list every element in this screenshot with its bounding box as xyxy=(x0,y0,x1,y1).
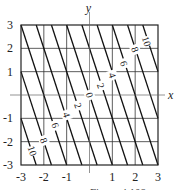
y-tick-label: -3 xyxy=(3,158,13,172)
x-tick-label: -3 xyxy=(16,170,26,184)
y-tick-label: -2 xyxy=(3,135,13,149)
x-tick-label: -1 xyxy=(62,170,72,184)
x-axis-label: x xyxy=(167,88,174,102)
x-tick-label: 1 xyxy=(109,170,115,184)
y-tick-label: -1 xyxy=(3,111,13,125)
contour-plot: 1086420246810 -3-2-1123321-1-2-3 x y Fig… xyxy=(0,0,175,190)
y-tick-label: 3 xyxy=(7,18,13,32)
y-axis-label: y xyxy=(85,1,92,15)
x-tick-label: 2 xyxy=(132,170,138,184)
figure-caption: Figure 4.108 xyxy=(90,186,147,190)
y-tick-label: 1 xyxy=(7,65,13,79)
x-tick-label: -2 xyxy=(39,170,49,184)
contour-label: 10 xyxy=(26,145,40,158)
contour-label: 10 xyxy=(140,35,154,48)
x-tick-label: 3 xyxy=(155,170,161,184)
y-tick-label: 2 xyxy=(7,41,13,55)
